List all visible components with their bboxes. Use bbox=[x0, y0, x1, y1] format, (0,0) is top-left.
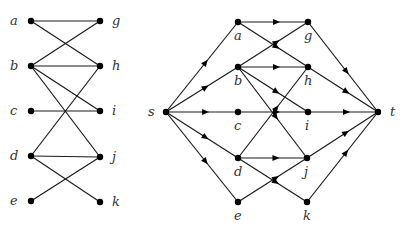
edge-j-t bbox=[307, 112, 378, 158]
arrowhead-icon bbox=[342, 87, 350, 93]
node-j bbox=[97, 154, 103, 160]
node-label-k: k bbox=[303, 208, 311, 223]
edge-b-i bbox=[238, 67, 308, 112]
node-t bbox=[375, 109, 381, 115]
bipartite-graph: abcdeghijk bbox=[10, 13, 120, 209]
node-label-b: b bbox=[10, 58, 18, 73]
node-label-g: g bbox=[112, 13, 120, 28]
flow-arrowheads bbox=[201, 19, 350, 184]
arrowhead-icon bbox=[201, 85, 209, 91]
arrowhead-icon bbox=[273, 19, 280, 25]
node-j bbox=[304, 155, 310, 161]
node-label-i: i bbox=[305, 118, 309, 133]
edge-s-e bbox=[166, 112, 238, 202]
arrowhead-icon bbox=[202, 109, 209, 115]
bipartite-edges bbox=[31, 21, 100, 202]
node-k bbox=[304, 199, 310, 205]
arrowhead-icon bbox=[342, 67, 349, 74]
arrowhead-icon bbox=[341, 131, 349, 137]
edge-s-d bbox=[166, 112, 238, 158]
node-e bbox=[28, 198, 34, 204]
node-label-a: a bbox=[10, 13, 18, 28]
edge-s-a bbox=[166, 22, 238, 112]
node-g bbox=[305, 19, 311, 25]
edge-k-t bbox=[307, 112, 378, 202]
node-label-k: k bbox=[112, 194, 120, 209]
node-label-d: d bbox=[234, 164, 242, 179]
arrowhead-icon bbox=[201, 133, 209, 139]
edge-s-b bbox=[166, 67, 238, 112]
node-label-i: i bbox=[112, 103, 116, 118]
node-label-e: e bbox=[234, 208, 242, 223]
arrowhead-icon bbox=[273, 64, 280, 70]
node-c bbox=[28, 108, 34, 114]
node-label-j: j bbox=[301, 164, 308, 179]
arrowhead-icon bbox=[272, 155, 279, 161]
node-label-a: a bbox=[234, 28, 242, 43]
node-label-t: t bbox=[390, 104, 396, 119]
node-label-s: s bbox=[148, 104, 155, 119]
edge-g-t bbox=[308, 22, 378, 112]
node-i bbox=[305, 109, 311, 115]
node-label-d: d bbox=[10, 148, 18, 163]
graph-canvas: abcdeghijk sabcdeghijkt bbox=[0, 0, 405, 233]
node-label-j: j bbox=[109, 149, 116, 164]
node-k bbox=[97, 199, 103, 205]
node-label-h: h bbox=[112, 58, 120, 73]
node-label-c: c bbox=[234, 118, 242, 133]
node-c bbox=[235, 109, 241, 115]
node-label-b: b bbox=[234, 73, 242, 88]
node-a bbox=[235, 19, 241, 25]
edge-h-t bbox=[308, 67, 378, 112]
arrowhead-icon bbox=[343, 109, 350, 115]
node-d bbox=[235, 155, 241, 161]
arrowhead-icon bbox=[272, 87, 280, 93]
node-label-e: e bbox=[10, 193, 18, 208]
node-label-h: h bbox=[304, 73, 312, 88]
node-label-c: c bbox=[10, 103, 18, 118]
edge-b-i bbox=[31, 66, 100, 111]
node-h bbox=[97, 63, 103, 69]
flow-network: sabcdeghijkt bbox=[148, 19, 396, 223]
node-label-g: g bbox=[304, 28, 312, 43]
node-a bbox=[28, 18, 34, 24]
node-s bbox=[163, 109, 169, 115]
node-h bbox=[305, 64, 311, 70]
node-b bbox=[235, 64, 241, 70]
node-g bbox=[97, 18, 103, 24]
edge-d-j bbox=[31, 156, 100, 157]
flow-labels: sabcdeghijkt bbox=[148, 28, 396, 223]
node-d bbox=[28, 153, 34, 159]
node-e bbox=[235, 199, 241, 205]
node-i bbox=[97, 108, 103, 114]
node-b bbox=[28, 63, 34, 69]
